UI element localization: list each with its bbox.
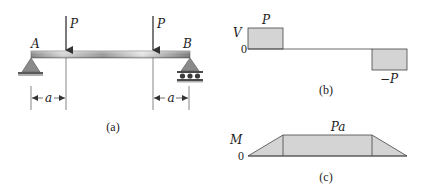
shear-zero-label: 0 (241, 42, 247, 56)
moment-axis-label: M (229, 133, 243, 147)
dimension-right-label: a (167, 91, 174, 105)
moment-zero-label: 0 (238, 149, 244, 163)
caption-c: (c) (319, 170, 332, 184)
shear-axis-label: V (233, 26, 243, 40)
beam-figure: P P A B a a (a) V 0 P −P (b) M 0 Pa (c) (0, 0, 430, 194)
caption-b: (b) (319, 83, 333, 97)
shear-negative-label: −P (380, 72, 399, 86)
load-left-label: P (69, 17, 79, 31)
shear-positive-label: P (261, 13, 271, 27)
shear-positive-region (248, 28, 283, 49)
beam-diagram: P P A B a a (a) (18, 16, 203, 134)
support-b-label: B (182, 37, 192, 51)
dimension-left-label: a (45, 91, 52, 105)
support-a-label: A (30, 37, 40, 51)
moment-region (248, 135, 407, 156)
shear-negative-region (372, 49, 407, 70)
roller-support-icon (177, 58, 203, 83)
beam-shading (31, 51, 190, 58)
caption-a: (a) (106, 120, 119, 134)
pin-support-icon (18, 58, 43, 76)
moment-peak-label: Pa (330, 120, 346, 134)
shear-diagram: V 0 P −P (b) (233, 13, 407, 97)
moment-diagram: M 0 Pa (c) (229, 120, 407, 184)
load-right-label: P (156, 17, 166, 31)
